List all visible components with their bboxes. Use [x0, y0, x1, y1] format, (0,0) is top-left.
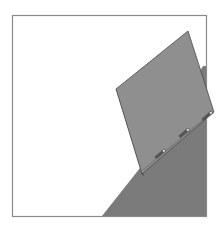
diagram-canvas: [0, 0, 224, 228]
hinged-panel-figure: [0, 0, 224, 228]
